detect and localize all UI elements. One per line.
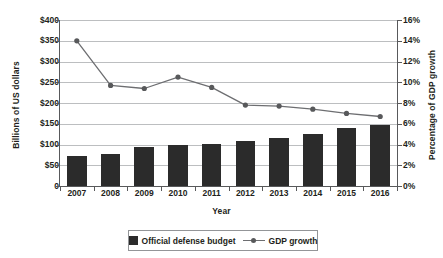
right-axis-tick-label: 12% — [403, 57, 420, 66]
x-axis-tick-mark — [161, 187, 162, 191]
right-axis-tick-mark — [398, 145, 402, 146]
right-axis-tick-mark — [398, 20, 402, 21]
x-axis-tick-label: 2016 — [363, 189, 397, 198]
x-axis-tick-mark — [127, 187, 128, 191]
right-axis-tick-mark — [398, 165, 402, 166]
legend-label-gdp-growth: GDP growth — [269, 236, 318, 246]
x-axis-tick-label: 2015 — [330, 189, 364, 198]
legend-item-gdp-growth: GDP growth — [243, 236, 318, 246]
right-axis-tick-label: 4% — [403, 140, 415, 149]
right-axis-tick-label: 6% — [403, 119, 415, 128]
x-axis-title: Year — [0, 206, 443, 216]
x-axis-tick-mark — [229, 187, 230, 191]
gdp-growth-data-point — [142, 86, 147, 91]
gdp-growth-data-point — [175, 75, 180, 80]
left-axis-title: Billions of US dollars — [11, 45, 21, 165]
gdp-growth-line-path — [77, 41, 380, 117]
gdp-growth-data-point — [74, 38, 79, 43]
right-axis-tick-label: 16% — [403, 16, 420, 25]
gdp-growth-data-point — [277, 104, 282, 109]
gdp-growth-data-point — [344, 111, 349, 116]
x-axis-tick-label: 2010 — [161, 189, 195, 198]
x-axis-tick-mark — [363, 187, 364, 191]
x-axis-tick-label: 2009 — [127, 189, 161, 198]
x-axis-tick-label: 2014 — [296, 189, 330, 198]
gdp-growth-data-point — [310, 107, 315, 112]
x-axis-tick-mark — [195, 187, 196, 191]
right-axis-tick-label: 2% — [403, 161, 415, 170]
x-axis-tick-label: 2012 — [229, 189, 263, 198]
legend-line-marker-icon — [243, 236, 265, 245]
gdp-growth-data-point — [243, 103, 248, 108]
x-axis-tick-mark — [330, 187, 331, 191]
x-axis-tick-mark — [397, 187, 398, 191]
x-axis-tick-mark — [94, 187, 95, 191]
legend-item-official-defense-budget: Official defense budget — [129, 236, 236, 246]
x-axis-tick-label: 2013 — [262, 189, 296, 198]
right-axis-tick-label: 0% — [403, 182, 415, 191]
right-axis-tick-mark — [398, 82, 402, 83]
right-axis-tick-label: 8% — [403, 99, 415, 108]
right-axis-tick-label: 14% — [403, 36, 420, 45]
legend-label-official-defense-budget: Official defense budget — [142, 236, 236, 246]
gdp-growth-data-point — [108, 83, 113, 88]
right-axis-tick-mark — [398, 62, 402, 63]
x-axis-tick-label: 2007 — [60, 189, 94, 198]
x-axis-tick-mark — [262, 187, 263, 191]
right-axis-tick-mark — [398, 124, 402, 125]
x-axis-tick-label: 2008 — [94, 189, 128, 198]
right-axis-tick-mark — [398, 103, 402, 104]
x-axis-tick-mark — [296, 187, 297, 191]
gdp-growth-data-point — [378, 114, 383, 119]
right-axis-title: Percentage of GDP growth — [427, 35, 437, 175]
right-axis-tick-mark — [398, 186, 402, 187]
legend-square-icon — [129, 236, 138, 245]
chart-legend: Official defense budget GDP growth — [128, 230, 318, 251]
line-series-gdp-growth — [60, 20, 397, 186]
right-axis-tick-label: 10% — [403, 78, 420, 87]
chart-container: Billions of US dollars Percentage of GDP… — [0, 0, 443, 258]
gdp-growth-data-point — [209, 85, 214, 90]
right-axis-tick-mark — [398, 41, 402, 42]
x-axis-tick-mark — [60, 187, 61, 191]
x-axis-tick-label: 2011 — [195, 189, 229, 198]
